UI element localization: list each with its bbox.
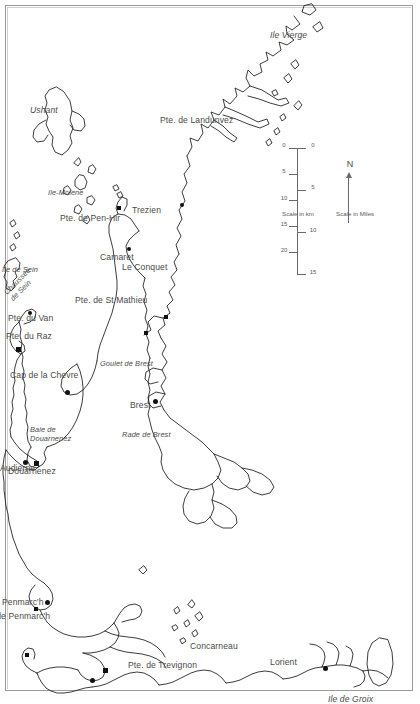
label-cap-de-la-chevre: Cap de la Chevre xyxy=(10,370,78,380)
scale-km-tick-0 xyxy=(289,148,297,149)
scale-miles-num-0: 0 xyxy=(311,142,314,148)
label-goulet-de-brest-l1: Goulet de Brest xyxy=(100,359,153,368)
compass-rose: N xyxy=(340,172,358,232)
scale-miles-num-15: 15 xyxy=(310,269,317,275)
scale-miles-num-10: 10 xyxy=(310,227,317,233)
label-camaret: Camaret xyxy=(100,252,134,262)
label-pte-de-st-mathieu: Pte. de St Mathieu xyxy=(75,295,148,305)
scale-miles-tick-0 xyxy=(297,148,306,149)
label-trezien: Trezien xyxy=(132,205,161,215)
scale-miles-tick-5 xyxy=(297,190,306,191)
label-lorient: Lorient xyxy=(270,657,297,667)
scale-km-tick-15 xyxy=(289,226,297,227)
label-rade-de-brest: Rade de Brest xyxy=(122,430,171,439)
label-pte-du-raz: Pte. du Raz xyxy=(6,331,52,341)
label-ushant: Ushant xyxy=(30,105,58,115)
marker-penmarch xyxy=(45,600,50,605)
scale-bar: 0 5 10 15 0 5 10 15 20 Scale in Miles Sc… xyxy=(262,148,320,280)
scale-km-caption: Scale in km xyxy=(282,210,314,217)
scale-miles-num-5: 5 xyxy=(311,184,314,190)
marker-lorient xyxy=(323,666,328,671)
marker-pte-st-mathieu xyxy=(144,331,148,335)
scale-km-tick-10 xyxy=(289,200,297,201)
label-baie-de-douarnenez-text: Baie de Douarnenez xyxy=(30,425,71,443)
scale-km-num-15: 15 xyxy=(281,221,288,227)
label-ile-molene: Ile-Molene xyxy=(48,188,84,197)
marker-concarneau-port xyxy=(103,668,108,673)
scale-km-num-5: 5 xyxy=(282,168,285,174)
label-pte-du-van: Pte. du Van xyxy=(8,313,53,323)
scale-km-num-10: 10 xyxy=(281,195,288,201)
scale-miles-caption: Scale in Miles xyxy=(336,210,374,217)
label-pte-de-trevignon: Pte. de Trevignon xyxy=(128,660,197,670)
label-le-conquet: Le Conquet xyxy=(122,262,167,272)
marker-camaret xyxy=(127,247,131,251)
label-concarneau: Concarneau xyxy=(190,641,238,651)
scale-km-num-0: 0 xyxy=(282,142,285,148)
marker-pen-hir xyxy=(117,206,121,210)
marker-trevignon xyxy=(25,653,29,657)
label-pte-de-pen-hir: Pte. de Pen-Hir xyxy=(60,213,120,223)
label-ile-vierge: Ile Vierge xyxy=(270,30,307,40)
compass-north-label: N xyxy=(347,159,354,169)
marker-le-conquet xyxy=(164,315,168,319)
marker-concarneau xyxy=(90,678,95,683)
scale-km-num-20: 20 xyxy=(281,247,288,253)
label-penmarch: Penmarc'h xyxy=(2,597,44,607)
scale-miles-tick-10 xyxy=(297,232,306,233)
marker-trezien xyxy=(180,203,184,207)
label-pte-de-penmarch: Pte. de Penmarc'h xyxy=(0,611,50,621)
scale-km-tick-20 xyxy=(289,252,297,253)
label-goulet-de-brest: Goulet de Brest xyxy=(100,360,153,368)
label-audierne: Audierne xyxy=(0,463,35,473)
label-ile-de-sein: Ile de Sein xyxy=(2,265,38,274)
label-ile-de-groix: Ile de Groix xyxy=(328,694,373,704)
marker-cap-chevre xyxy=(65,390,70,395)
marker-pte-du-raz xyxy=(16,347,21,352)
marker-brest xyxy=(153,399,158,404)
scale-miles-tick-15 xyxy=(297,274,306,275)
label-pte-de-landunvez: Pte. de Landunvez xyxy=(160,115,233,125)
scale-km-tick-5 xyxy=(289,174,297,175)
label-brest: Brest xyxy=(130,400,151,410)
label-baie-de-douarnenez: Baie de Douarnenez xyxy=(30,425,71,443)
compass-arrow-head xyxy=(346,172,352,178)
